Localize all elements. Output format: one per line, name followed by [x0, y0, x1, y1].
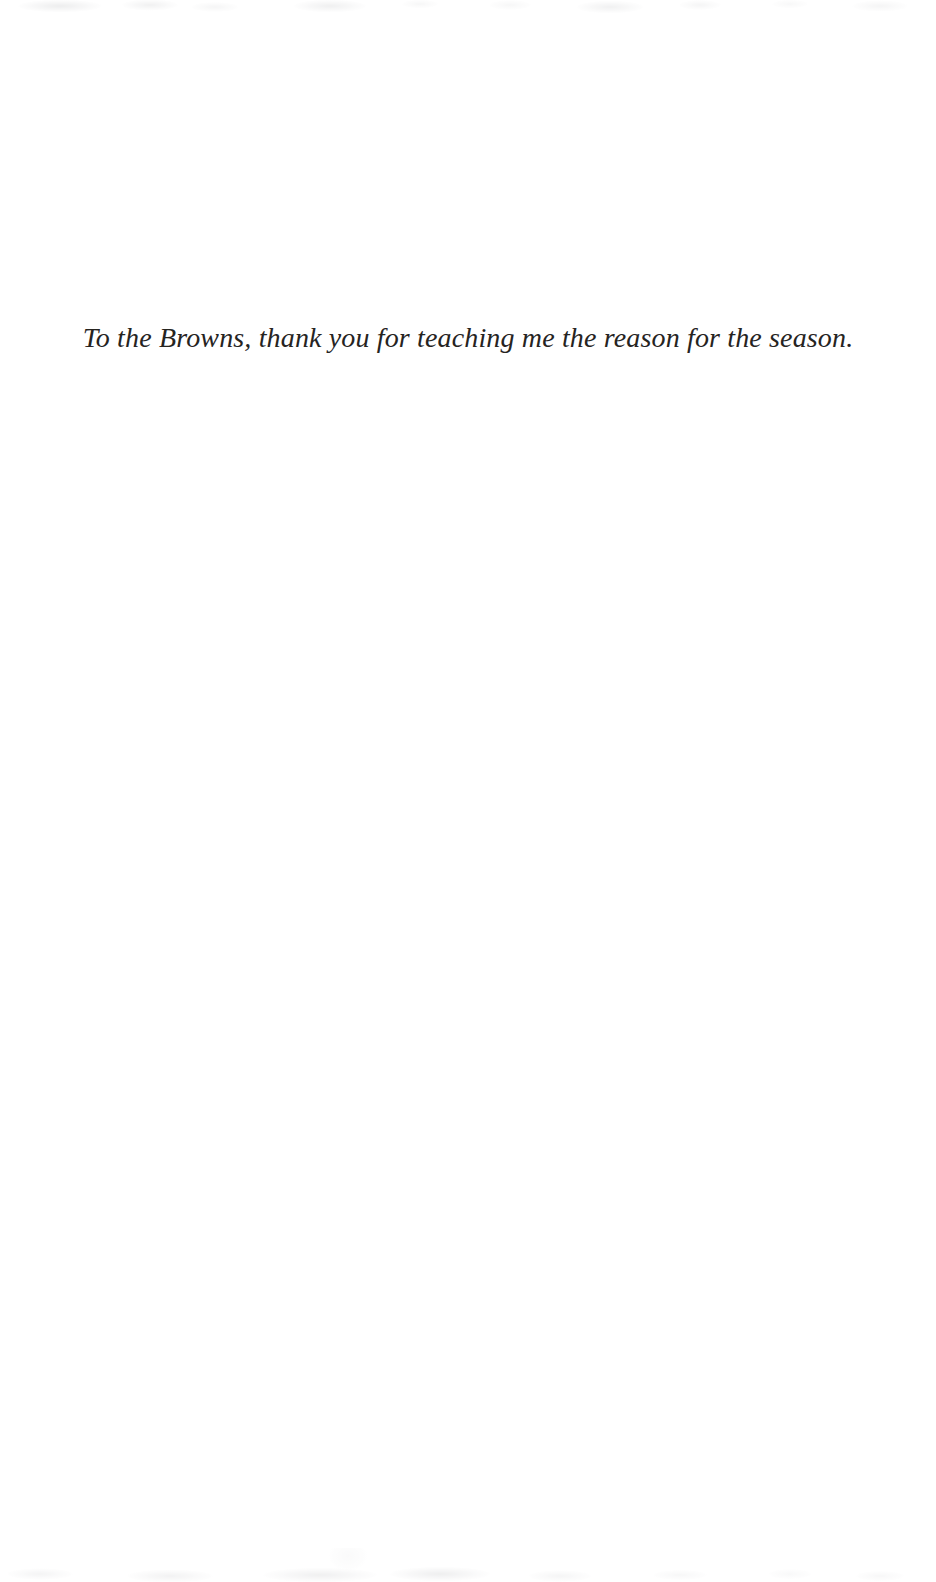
dedication-page: To the Browns, thank you for teaching me…: [0, 0, 936, 1582]
dedication-block: To the Browns, thank you for teaching me…: [0, 318, 936, 358]
scan-edge-artifact-top: [0, 0, 936, 26]
dedication-text: To the Browns, thank you for teaching me…: [83, 318, 854, 358]
scan-edge-artifact-bottom: [0, 1548, 936, 1582]
